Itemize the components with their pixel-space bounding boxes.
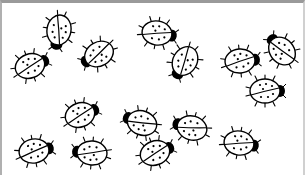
ladybug-icon	[168, 107, 215, 148]
ladybug-icon	[161, 37, 209, 88]
ladybug-icon	[73, 31, 124, 79]
ladybug-icon	[57, 93, 106, 137]
ladybug-illustration	[2, 3, 305, 175]
ladybug-icon	[246, 75, 286, 107]
illustration-frame	[0, 0, 305, 175]
ladybug-icon	[40, 9, 78, 54]
ladybug-icon	[13, 132, 58, 170]
ladybug-icon	[218, 124, 263, 162]
ladybug-icon	[256, 25, 305, 76]
ladybug-icon	[136, 14, 181, 52]
ladybug-icon	[70, 135, 113, 170]
ladybug-icon	[7, 44, 56, 88]
ladybug-icon	[220, 43, 263, 78]
ladybug-icon	[117, 101, 166, 145]
ladybug-icon	[132, 131, 181, 175]
